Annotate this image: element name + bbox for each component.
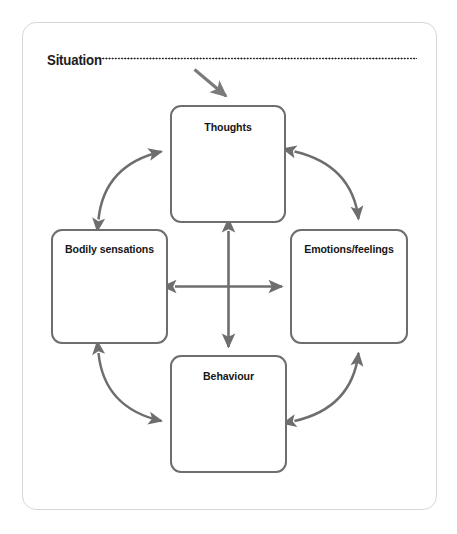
cbt-hot-cross-bun-worksheet: Situation Thoughts Bodil	[0, 0, 457, 534]
situation-label: Situation	[47, 51, 102, 68]
node-emotions-feelings[interactable]: Emotions/feelings	[290, 229, 408, 344]
node-behaviour[interactable]: Behaviour	[170, 355, 287, 473]
node-bodily-sensations[interactable]: Bodily sensations	[51, 229, 168, 344]
node-thoughts[interactable]: Thoughts	[170, 105, 286, 223]
node-thoughts-label: Thoughts	[176, 121, 279, 133]
node-bodily-sensations-label: Bodily sensations	[58, 243, 162, 255]
node-emotions-feelings-label: Emotions/feelings	[297, 243, 402, 255]
situation-row: Situation	[47, 51, 417, 71]
situation-dotted-line[interactable]	[99, 52, 417, 65]
node-behaviour-label: Behaviour	[177, 370, 281, 382]
